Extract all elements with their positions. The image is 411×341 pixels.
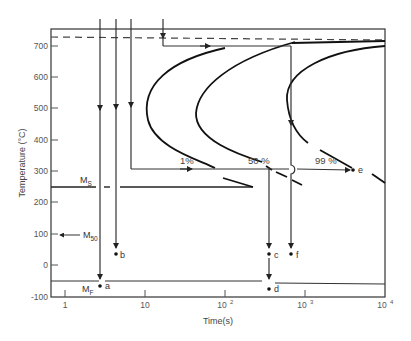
y-axis-labels: 700 600 500 400 300 200 100 0 -100 (31, 41, 48, 302)
svg-text:10: 10 (297, 300, 307, 310)
svg-text:600: 600 (34, 72, 48, 82)
x-axis-title: Time(s) (203, 316, 233, 326)
svg-text:700: 700 (34, 41, 48, 51)
curve-1pct-lower (223, 178, 253, 187)
svg-text:400: 400 (34, 135, 48, 145)
curve-99pct (287, 46, 385, 143)
svg-text:1: 1 (63, 300, 68, 310)
label-f: f (296, 250, 299, 260)
svg-text:10: 10 (217, 300, 227, 310)
eutectoid-line (51, 37, 385, 40)
curve-50pct (196, 42, 295, 162)
y-axis-ticks (51, 46, 58, 265)
label-m50: M50 (83, 230, 98, 242)
svg-text:4: 4 (390, 299, 394, 305)
svg-text:3: 3 (310, 299, 314, 305)
path-cde (131, 19, 350, 279)
svg-text:10: 10 (377, 300, 387, 310)
label-99pct: 99 % (315, 155, 337, 166)
ttt-diagram: 700 600 500 400 300 200 100 0 -100 Tempe… (0, 0, 411, 341)
x-axis-labels: 1 10 10 2 10 3 10 4 (63, 299, 394, 310)
svg-text:10: 10 (140, 300, 150, 310)
path-f (163, 19, 295, 248)
label-50pct: 50 % (248, 155, 270, 166)
label-c: c (274, 250, 279, 260)
svg-text:500: 500 (34, 103, 48, 113)
label-b: b (120, 250, 125, 260)
label-a: a (105, 281, 110, 291)
label-1pct: 1% (180, 155, 194, 166)
label-mf: MF (82, 284, 94, 296)
y-axis-title: Temperature (°C) (17, 128, 27, 197)
x-axis-ticks (65, 290, 305, 297)
svg-text:0: 0 (43, 260, 48, 270)
svg-text:100: 100 (34, 229, 48, 239)
label-ms: MS (80, 175, 93, 187)
label-d: d (274, 284, 279, 294)
curve-1pct (147, 48, 225, 168)
svg-text:300: 300 (34, 166, 48, 176)
label-e: e (358, 165, 363, 175)
svg-text:2: 2 (230, 299, 234, 305)
svg-text:200: 200 (34, 197, 48, 207)
svg-text:-100: -100 (31, 292, 48, 302)
mf-line (51, 281, 385, 284)
